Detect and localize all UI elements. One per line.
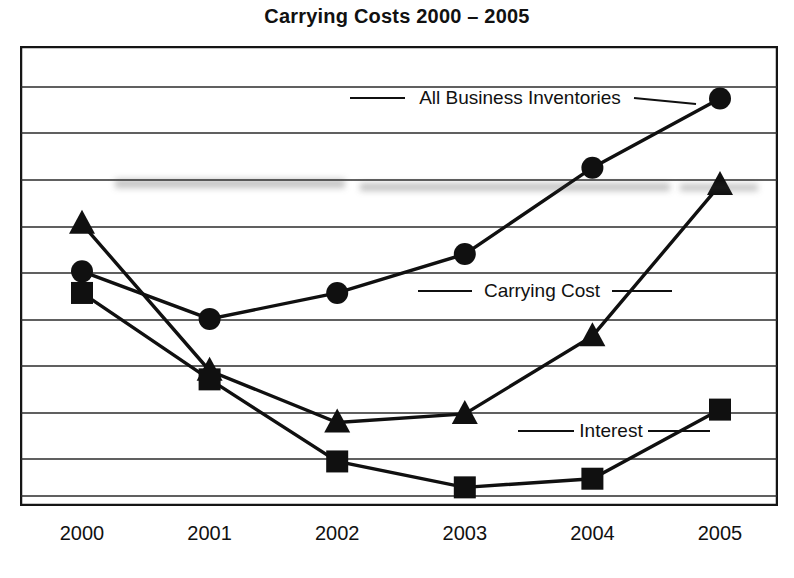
series-line <box>82 185 720 423</box>
data-point-marker <box>709 399 731 421</box>
data-point-marker <box>326 282 348 304</box>
leader-line-all-business-inventories-right <box>634 98 696 104</box>
page-title: Carrying Costs 2000 – 2005 <box>0 5 794 28</box>
data-point-marker <box>71 282 93 304</box>
data-point-marker <box>454 476 476 498</box>
data-point-marker <box>326 450 348 472</box>
data-point-marker <box>452 400 478 424</box>
data-point-marker <box>581 157 603 179</box>
x-axis-tick-label: 2005 <box>698 522 743 545</box>
data-point-marker <box>581 468 603 490</box>
data-point-marker <box>69 210 95 234</box>
annotation-interest: Interest <box>579 420 642 442</box>
x-axis: 200020012002200320042005 <box>20 508 778 554</box>
data-point-marker <box>707 171 733 195</box>
data-point-marker <box>71 260 93 282</box>
x-axis-tick-label: 2001 <box>187 522 232 545</box>
data-point-marker <box>199 368 221 390</box>
series-line <box>82 99 720 319</box>
plot-border <box>21 47 777 505</box>
chart-plot-area: All Business Inventories Carrying Cost I… <box>20 46 778 506</box>
x-axis-tick-label: 2002 <box>315 522 360 545</box>
data-point-marker <box>454 243 476 265</box>
data-point-marker <box>709 88 731 110</box>
annotation-carrying-cost: Carrying Cost <box>484 280 600 302</box>
x-axis-tick-label: 2004 <box>570 522 615 545</box>
annotation-all-business-inventories: All Business Inventories <box>419 87 621 109</box>
line-chart-svg <box>20 46 778 506</box>
data-point-marker <box>199 308 221 330</box>
x-axis-tick-label: 2003 <box>443 522 488 545</box>
series-line <box>82 293 720 487</box>
annotation-leader-lines <box>350 98 710 431</box>
x-axis-tick-label: 2000 <box>60 522 105 545</box>
